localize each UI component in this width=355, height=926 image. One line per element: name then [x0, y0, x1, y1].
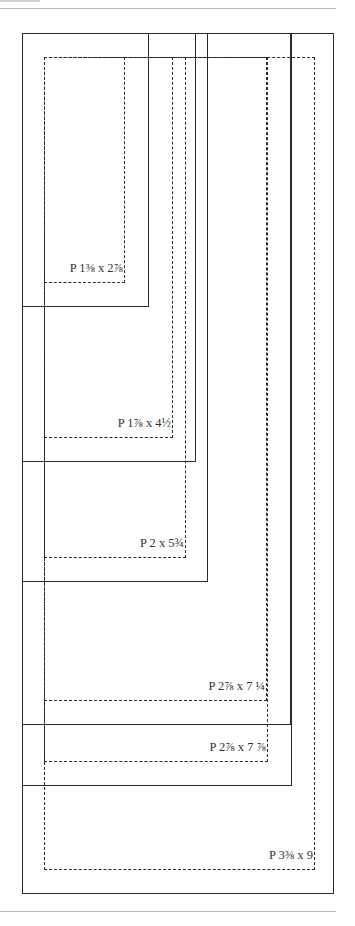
cut-off-header-text: [0, 0, 40, 2]
bottom-divider: [0, 911, 336, 912]
size-label-6: P 3⅜ x 9: [269, 848, 313, 862]
inner-dashed-box-6: [44, 57, 315, 870]
top-divider: [0, 8, 336, 9]
